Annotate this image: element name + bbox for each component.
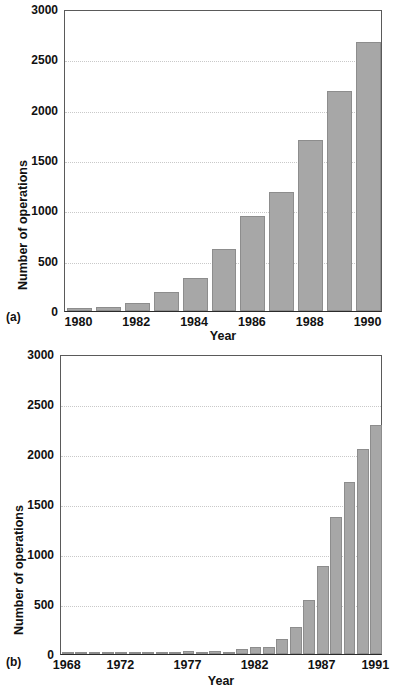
bar <box>298 140 323 311</box>
y-tick-label: 1500 <box>0 155 58 167</box>
bar <box>142 652 154 654</box>
bar <box>75 652 87 654</box>
y-tick-label: 1000 <box>0 205 58 217</box>
bar <box>357 449 369 654</box>
x-tick-label: 1968 <box>37 659 97 672</box>
bar <box>129 652 141 654</box>
bar <box>196 652 208 654</box>
y-tick-label: 2000 <box>0 105 58 117</box>
bar <box>212 249 237 311</box>
y-tick-label: 3000 <box>0 349 54 361</box>
panel-b-bars <box>61 356 381 654</box>
x-tick-label: 1972 <box>90 659 150 672</box>
bar <box>269 192 294 311</box>
bar <box>89 652 101 654</box>
y-tick-label: 3000 <box>0 4 58 16</box>
bar <box>209 651 221 654</box>
bar <box>96 307 121 311</box>
x-tick-label: 1984 <box>164 316 224 329</box>
bar <box>370 425 382 654</box>
bar <box>102 652 114 654</box>
x-tick-label: 1986 <box>222 316 282 329</box>
y-tick-label: 2000 <box>0 449 54 461</box>
bar <box>236 649 248 654</box>
y-tick-label: 500 <box>0 599 54 611</box>
panel-b: (b) Number of operations 050010001500200… <box>0 347 402 695</box>
x-tick-label: 1980 <box>48 316 108 329</box>
bar <box>240 216 265 311</box>
x-tick-label: 1977 <box>157 659 217 672</box>
bar <box>263 647 275 654</box>
bar <box>183 278 208 311</box>
figure-two-bar-charts: (a) Number of operations 050010001500200… <box>0 0 402 695</box>
bar <box>154 292 179 311</box>
bar <box>62 652 74 654</box>
y-tick-label: 2500 <box>0 399 54 411</box>
y-tick-label: 500 <box>0 256 58 268</box>
bar <box>250 647 262 655</box>
y-tick-label: 1500 <box>0 499 54 511</box>
panel-a-plot-area <box>64 10 382 312</box>
panel-a-bars <box>65 11 381 311</box>
bar <box>330 517 342 654</box>
bar <box>303 600 315 655</box>
bar <box>276 639 288 655</box>
panel-b-x-axis-label: Year <box>60 674 382 688</box>
bar <box>183 651 195 654</box>
bar <box>67 308 92 311</box>
x-tick-label: 1990 <box>338 316 398 329</box>
x-tick-label: 1987 <box>292 659 352 672</box>
x-tick-label: 1991 <box>345 659 402 672</box>
bar <box>356 42 381 311</box>
x-tick-label: 1982 <box>106 316 166 329</box>
panel-a-y-axis-label: Number of operations <box>16 160 30 290</box>
bar <box>223 652 235 655</box>
x-tick-label: 1988 <box>280 316 340 329</box>
bar <box>169 652 181 654</box>
panel-a-x-axis-label: Year <box>64 329 382 343</box>
y-tick-label: 2500 <box>0 54 58 66</box>
bar <box>317 566 329 654</box>
bar <box>156 652 168 654</box>
bar <box>290 627 302 655</box>
bar <box>344 482 356 654</box>
bar <box>327 91 352 311</box>
bar <box>125 303 150 311</box>
y-tick-label: 1000 <box>0 549 54 561</box>
x-tick-label: 1982 <box>225 659 285 672</box>
panel-b-y-axis-label: Number of operations <box>12 505 26 635</box>
panel-a: (a) Number of operations 050010001500200… <box>0 0 402 348</box>
panel-b-plot-area <box>60 355 382 655</box>
bar <box>115 652 127 654</box>
